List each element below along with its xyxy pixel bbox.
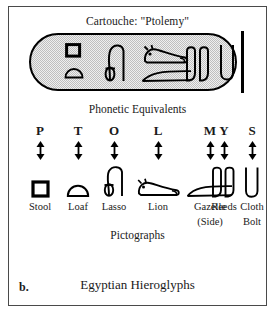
cartouche bbox=[29, 33, 254, 91]
cartouche-lion-glyph bbox=[141, 44, 189, 66]
pictograph-name-lion: Lion bbox=[130, 201, 186, 213]
letter-s: S bbox=[237, 123, 267, 138]
pictographs-heading: Pictographs bbox=[9, 229, 266, 241]
pictograph-name-cloth-2: Bolt bbox=[237, 216, 267, 228]
panel-letter: b. bbox=[19, 280, 29, 295]
double-arrow-icon bbox=[237, 140, 267, 160]
cartouche-lasso-glyph bbox=[104, 41, 127, 83]
cloth-bolt-glyph bbox=[237, 164, 267, 198]
column-cloth-bolt: S Cloth Bolt bbox=[237, 123, 267, 227]
column-lion: L Lion bbox=[130, 123, 186, 213]
figure-title: Cartouche: "Ptolemy" bbox=[9, 15, 266, 27]
cartouche-vertical-bar bbox=[241, 31, 244, 93]
cartouche-loaf-glyph bbox=[64, 67, 84, 79]
double-arrow-icon bbox=[130, 140, 186, 160]
pictograph-name-cloth: Cloth bbox=[237, 201, 267, 213]
cartouche-reeds-glyph bbox=[185, 43, 212, 82]
letter-l: L bbox=[130, 123, 186, 138]
cartouche-stool-glyph bbox=[65, 43, 82, 58]
lion-glyph bbox=[130, 164, 186, 198]
cartouche-cloth-bolt-glyph bbox=[219, 43, 235, 81]
figure-panel: Cartouche: "Ptolemy" bbox=[8, 6, 267, 306]
figure-caption: Egyptian Hieroglyphs bbox=[9, 277, 266, 293]
phonetic-equivalents-heading: Phonetic Equivalents bbox=[9, 103, 266, 115]
pictograph-name-gazelle-2: (Side) bbox=[182, 216, 238, 228]
